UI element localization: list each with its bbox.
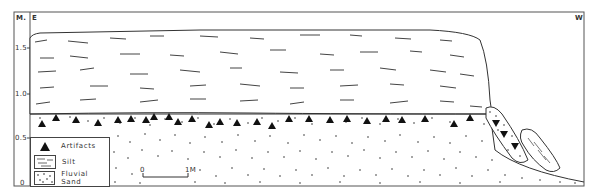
legend-label: Artifacts — [61, 142, 96, 150]
legend-label: Silt — [62, 158, 75, 166]
silt-swatch-icon — [34, 155, 56, 169]
orientation-west-label: W — [575, 14, 583, 22]
legend-item-silt: Silt — [34, 155, 75, 169]
scale-end-label: 1M — [185, 166, 196, 174]
axis-tick-label: 1.5 — [15, 44, 27, 52]
artifact-triangle-icon — [40, 142, 50, 151]
scale-start-label: 0 — [140, 166, 145, 174]
legend-item-fluvial-sand: Fluvial Sand — [34, 171, 109, 185]
legend-label: Fluvial Sand — [61, 170, 109, 186]
sand-swatch-icon — [34, 171, 55, 185]
orientation-east-label: E — [32, 14, 37, 22]
axis-unit-label: M. — [16, 14, 26, 22]
axis-tick-label: 1.0 — [15, 90, 27, 98]
silt-layer — [30, 30, 492, 114]
scale-bar — [143, 173, 188, 177]
artifact-markers — [38, 113, 474, 129]
axis-tick-label: 0.5 — [15, 134, 27, 142]
axis-tick-label: 0 — [20, 179, 25, 187]
cross-section-figure: M. 1.5 1.0 0.5 0 E W 0 1M Artifacts Silt… — [0, 0, 592, 196]
legend: Artifacts Silt Fluvial Sand — [30, 137, 110, 187]
legend-item-artifacts: Artifacts — [34, 139, 96, 153]
